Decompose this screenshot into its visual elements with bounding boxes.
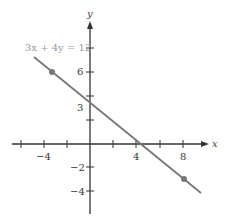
y-tick-label-3: 3 — [77, 102, 83, 113]
x-tick-label-4: 4 — [133, 151, 139, 162]
y-tick-label-6: 6 — [77, 66, 83, 77]
graph-line — [34, 57, 201, 193]
x-tick-label-neg4: −4 — [36, 151, 51, 162]
x-axis-arrow-icon — [201, 141, 209, 147]
x-tick-label-8: 8 — [180, 151, 186, 162]
x-axis-label: x — [212, 138, 218, 149]
y-axis-label: y — [86, 8, 93, 19]
point-neg4-6 — [49, 69, 55, 75]
point-8-neg3 — [181, 176, 187, 182]
y-tick-label-neg4: −4 — [70, 186, 85, 197]
y-tick-label-neg2: −2 — [70, 162, 85, 173]
coordinate-plane: y x 3x + 4y = 12 6 3 −2 −4 −4 4 8 — [0, 0, 228, 222]
y-axis-arrow-icon — [87, 21, 93, 29]
equation-label: 3x + 4y = 12 — [25, 42, 91, 53]
